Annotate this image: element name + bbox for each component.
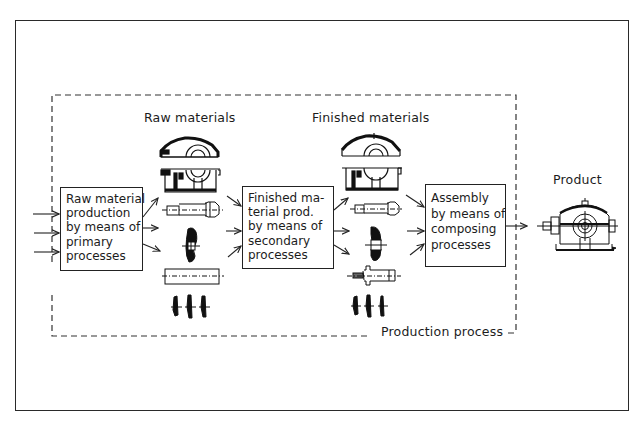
raw-housing-cover-icon: [161, 138, 218, 157]
box-line: terial prod.: [248, 205, 328, 219]
box-line: by means of: [248, 219, 328, 233]
box-line: production: [66, 206, 137, 220]
raw-small-gear-blanks-icon: [171, 295, 210, 318]
finished-machined-shaft-icon: [350, 202, 402, 215]
finished-housing-base-icon: [342, 168, 402, 190]
box-line: Finished ma-: [248, 191, 328, 205]
primary-process-box: Raw material production by means of prim…: [60, 187, 143, 271]
arrows-finished-to-assembly: [406, 195, 424, 255]
arrows-raw-to-secondary: [226, 196, 241, 257]
raw-gear-blank-icon: [182, 228, 200, 262]
finished-small-gears-icon: [351, 295, 388, 317]
box-line: processes: [66, 249, 137, 263]
finished-pinion-shaft-icon: [347, 266, 401, 285]
box-line: secondary: [248, 234, 328, 248]
raw-bar-stock-icon: [162, 269, 224, 284]
secondary-process-box: Finished ma- terial prod. by means of se…: [242, 186, 334, 269]
gearbox-assembly-icon: [537, 198, 618, 250]
arrows-secondary-to-finished: [334, 198, 349, 254]
product-label: Product: [553, 172, 602, 187]
finished-materials-label: Finished materials: [312, 110, 429, 125]
box-line: by means of: [431, 207, 500, 223]
raw-housing-base-icon: [161, 169, 220, 192]
finished-machined-gear-icon: [365, 227, 387, 261]
composing-process-box: Assembly by means of composing processes: [425, 184, 506, 267]
finished-housing-cover-icon: [342, 133, 400, 156]
production-process-label: Production process: [378, 324, 506, 339]
box-line: composing: [431, 222, 500, 238]
arrows-primary-to-raw: [143, 198, 160, 251]
box-line: processes: [431, 238, 500, 254]
raw-shaft-blank-icon: [162, 202, 223, 217]
input-arrows: [33, 214, 59, 252]
box-line: by means of: [66, 220, 137, 234]
raw-materials-label: Raw materials: [144, 110, 236, 125]
box-line: processes: [248, 248, 328, 262]
box-line: primary: [66, 235, 137, 249]
box-line: Assembly: [431, 191, 500, 207]
box-line: Raw material: [66, 192, 137, 206]
